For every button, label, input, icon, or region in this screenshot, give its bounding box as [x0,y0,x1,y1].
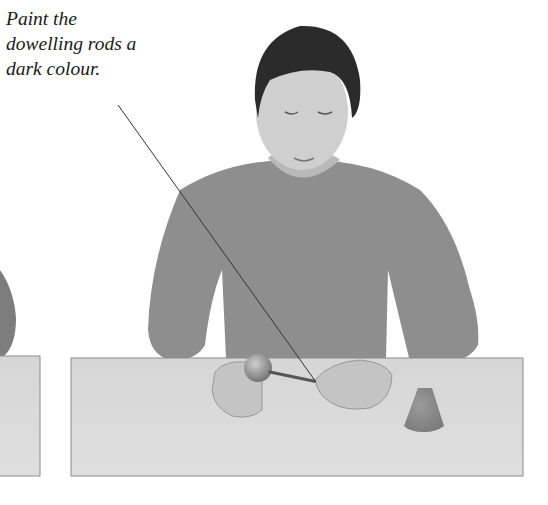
wooden-ball [244,354,272,382]
sweater [148,160,478,364]
illustration [0,0,548,505]
girl-figure [148,26,478,364]
previous-panel [0,270,40,476]
table [71,358,523,476]
partial-table [0,356,40,476]
partial-arm [0,270,16,356]
